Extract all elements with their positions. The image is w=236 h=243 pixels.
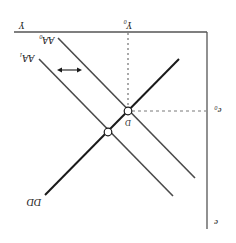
x-axis-label: Y <box>18 20 25 31</box>
equilibrium-point-d <box>124 107 132 115</box>
dd-label: DD <box>26 197 42 208</box>
dd-curve <box>45 59 179 195</box>
aa1-label: AA1 <box>19 52 35 64</box>
shift-arrow-icon <box>57 68 82 73</box>
y0-label: Y0 <box>124 19 133 31</box>
dd-aa-diagram: Y Y0 e0 e AA0 AA1 DD D <box>0 0 236 243</box>
point-d-label: D <box>125 118 132 127</box>
new-equilibrium-point <box>104 128 112 136</box>
aa1-curve <box>39 59 173 196</box>
e0-label: e0 <box>215 105 222 116</box>
aa0-label: AA0 <box>39 34 55 46</box>
y-axis-label: e <box>214 218 218 228</box>
